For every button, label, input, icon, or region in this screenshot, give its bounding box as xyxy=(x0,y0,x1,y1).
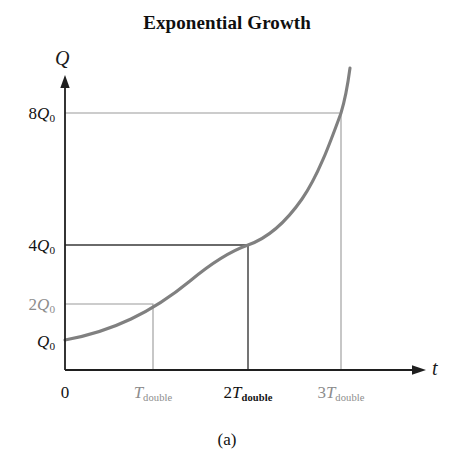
y-tick-2q0-prefix: 2 xyxy=(29,295,38,314)
x-tick-zero: 0 xyxy=(61,384,70,401)
x-tick-2tdouble-sub: double xyxy=(241,392,272,403)
y-tick-4q0-sub: 0 xyxy=(49,244,55,256)
x-tick-2tdouble-prefix: 2 xyxy=(223,383,232,402)
y-tick-8q0-prefix: 8 xyxy=(29,104,38,123)
y-tick-q0-sub: 0 xyxy=(49,340,55,352)
x-tick-3tdouble-sub: double xyxy=(335,392,364,403)
y-tick-4q0: 4Q0 xyxy=(0,237,55,254)
x-tick-3tdouble: 3Tdouble xyxy=(317,384,364,401)
guideline-4q0 xyxy=(65,245,248,370)
y-tick-8q0-var: Q xyxy=(37,104,49,123)
y-axis-label: Q xyxy=(55,47,69,70)
y-tick-2q0: 2Q0 xyxy=(0,296,55,313)
y-tick-q0: Q0 xyxy=(0,333,55,350)
x-tick-3tdouble-prefix: 3 xyxy=(317,383,326,402)
y-axis-arrowhead xyxy=(60,75,69,88)
exponential-growth-figure: Exponential Growth Q t 8Q0 4Q0 2Q0 Q0 0 xyxy=(0,0,454,464)
x-tick-tdouble-sub: double xyxy=(143,392,172,403)
y-tick-4q0-prefix: 4 xyxy=(29,236,38,255)
x-axis-arrowhead xyxy=(412,365,426,375)
x-tick-2tdouble-var: T xyxy=(232,383,241,402)
y-tick-8q0: 8Q0 xyxy=(0,105,55,122)
exponential-curve xyxy=(65,68,350,340)
y-tick-4q0-var: Q xyxy=(37,236,49,255)
y-tick-q0-var: Q xyxy=(37,332,49,351)
y-tick-2q0-var: Q xyxy=(37,295,49,314)
guideline-8q0 xyxy=(65,113,341,370)
x-tick-tdouble: Tdouble xyxy=(134,384,173,401)
x-tick-zero-prefix: 0 xyxy=(61,383,70,402)
y-tick-8q0-sub: 0 xyxy=(49,112,55,124)
x-axis-label: t xyxy=(432,357,438,380)
figure-caption: (a) xyxy=(0,430,454,450)
x-tick-3tdouble-var: T xyxy=(326,383,335,402)
x-tick-2tdouble: 2Tdouble xyxy=(223,384,272,401)
y-tick-2q0-sub: 0 xyxy=(49,303,55,315)
